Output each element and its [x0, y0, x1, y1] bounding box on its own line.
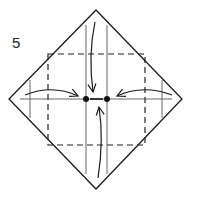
arrow-bottom-to-center-icon [98, 107, 101, 178]
origami-diagram: 5 [0, 0, 197, 199]
fold-diagram-svg [0, 0, 197, 199]
arrow-left-to-center-icon [25, 90, 78, 96]
arrow-top-to-center-icon [91, 22, 95, 92]
reference-point-left [83, 96, 89, 102]
reference-point-right [104, 96, 110, 102]
